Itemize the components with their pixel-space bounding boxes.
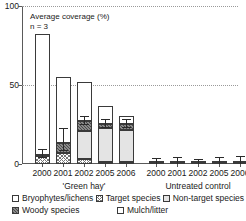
legend-swatch-target-icon	[96, 195, 103, 202]
legend-label: Bryophytes/lichens	[22, 194, 93, 203]
x-axis-tick	[84, 164, 85, 167]
legend-row: Woody species Mulch/litter	[12, 206, 244, 215]
legend-item-mulch-litter[interactable]: Mulch/litter	[117, 206, 201, 215]
error-bar-cap	[236, 156, 245, 157]
error-bar	[240, 157, 241, 164]
error-bar-cap	[173, 157, 182, 158]
error-bar-cap	[80, 124, 89, 125]
x-tick-label: 2006	[113, 169, 139, 178]
error-bar-cap	[101, 127, 110, 128]
x-axis-tick	[219, 164, 220, 167]
error-bar-cap	[59, 128, 68, 129]
group-label: Untreated control	[153, 182, 243, 191]
bar-segment	[77, 131, 92, 159]
legend-label: Non-target species	[173, 194, 244, 203]
bar[interactable]	[98, 106, 113, 164]
bar-segment	[35, 34, 50, 154]
x-axis-tick	[42, 164, 43, 167]
sample-size-annotation: n = 3	[30, 22, 48, 32]
bar-segment	[56, 153, 71, 164]
x-axis-tick	[63, 164, 64, 167]
x-tick-label: 2006	[227, 169, 246, 178]
legend: Bryophytes/lichens Target species Non-ta…	[12, 194, 244, 218]
y-axis-tick	[18, 6, 22, 7]
bar-segment	[119, 130, 134, 162]
error-bar-cap	[80, 116, 89, 117]
y-axis-tick	[18, 85, 22, 86]
x-axis-tick	[177, 164, 178, 167]
legend-row: Bryophytes/lichens Target species Non-ta…	[12, 194, 244, 203]
error-bar-cap	[38, 149, 47, 150]
plot-area	[22, 6, 238, 164]
error-bar-cap	[59, 150, 68, 151]
y-axis-tick	[18, 164, 22, 165]
x-axis-tick	[126, 164, 127, 167]
legend-swatch-woody-icon	[12, 207, 19, 214]
x-axis-tick	[240, 164, 241, 167]
error-bar	[63, 129, 64, 151]
legend-label: Target species	[106, 194, 161, 203]
error-bar-cap	[215, 157, 224, 158]
error-bar-cap	[101, 119, 110, 120]
x-axis-tick	[156, 164, 157, 167]
group-label: 'Green hay'	[39, 182, 129, 191]
y-tick-label: 100	[5, 2, 19, 11]
error-bar-cap	[152, 158, 161, 159]
x-axis-tick	[198, 164, 199, 167]
legend-label: Mulch/litter	[127, 206, 168, 215]
error-bar-cap	[122, 119, 131, 120]
grid-line	[22, 85, 238, 86]
chart-title-annotation: Average coverage (%)	[30, 12, 109, 22]
bar[interactable]	[35, 34, 50, 164]
legend-swatch-bryophytes-icon	[12, 195, 19, 202]
bar-segment	[98, 128, 113, 161]
figure-container: 0 50 100 Average coverage (%) n = 3 2000…	[0, 0, 246, 221]
grid-line	[22, 6, 238, 7]
x-axis-tick	[105, 164, 106, 167]
error-bar-cap	[194, 159, 203, 160]
legend-item-woody-species[interactable]: Woody species	[12, 206, 117, 215]
legend-label: Woody species	[22, 206, 79, 215]
legend-swatch-mulch-icon	[117, 207, 124, 214]
legend-swatch-non-target-icon	[163, 195, 170, 202]
y-axis-labels: 0 50 100	[0, 6, 19, 164]
legend-item-non-target-species[interactable]: Non-target species	[163, 194, 244, 203]
legend-item-bryophytes-lichens[interactable]: Bryophytes/lichens	[12, 194, 96, 203]
error-bar-cap	[38, 157, 47, 158]
legend-item-target-species[interactable]: Target species	[96, 194, 163, 203]
error-bar-cap	[122, 127, 131, 128]
